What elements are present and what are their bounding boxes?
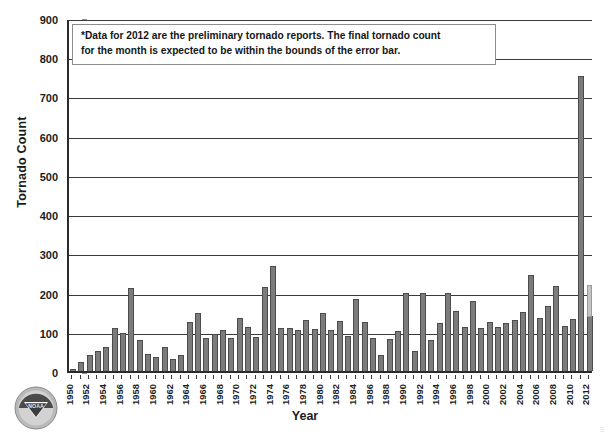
x-tick-label-1988: 1988 [380,384,391,405]
bar-slot-1961 [161,20,169,371]
bar-2006[interactable] [537,318,543,371]
bar-1969[interactable] [228,338,234,371]
bar-1950[interactable] [70,369,76,371]
bar-2011[interactable] [578,76,584,371]
x-tick-label-1964: 1964 [180,384,191,405]
x-tick-label-2000: 2000 [480,384,491,405]
bar-1975[interactable] [278,328,284,371]
bar-slot-1986 [369,20,377,371]
bar-slot-2002 [502,20,510,371]
x-tick-mark-1966 [205,375,206,379]
bar-slot-2000 [486,20,494,371]
bar-2012[interactable] [587,316,593,371]
bar-1972[interactable] [253,337,259,371]
bar-2010[interactable] [570,319,576,371]
bar-1954[interactable] [103,347,109,371]
bar-1956[interactable] [120,333,126,371]
x-tick-mark-2004 [521,375,522,379]
bar-2002[interactable] [503,323,509,371]
y-tick-label-600: 600 [20,132,58,144]
bar-1987[interactable] [378,355,384,371]
bar-1955[interactable] [112,328,118,371]
bar-2009[interactable] [562,326,568,371]
bar-2000[interactable] [487,322,493,371]
x-tick-mark-1957 [130,375,131,379]
bar-1963[interactable] [178,355,184,371]
bar-1989[interactable] [395,331,401,371]
bar-1992[interactable] [420,293,426,371]
bar-slot-1968 [219,20,227,371]
x-tick-mark-1960 [155,375,156,379]
bar-1982[interactable] [337,321,343,371]
bar-slot-1960 [152,20,160,371]
bar-slot-1956 [119,20,127,371]
bar-1953[interactable] [95,351,101,371]
bar-1985[interactable] [362,322,368,371]
y-tick-label-500: 500 [20,171,58,183]
bar-1995[interactable] [445,293,451,371]
bar-1986[interactable] [370,338,376,371]
bar-1994[interactable] [437,323,443,371]
bar-2007[interactable] [545,306,551,372]
bar-1973[interactable] [262,287,268,371]
bar-1951[interactable] [78,362,84,371]
bar-1970[interactable] [237,318,243,371]
bar-1984[interactable] [353,299,359,371]
bar-1979[interactable] [312,329,318,371]
bar-1967[interactable] [212,334,218,371]
bar-1991[interactable] [412,351,418,371]
bar-2003[interactable] [512,320,518,371]
bar-slot-1958 [136,20,144,371]
bar-1957[interactable] [128,288,134,371]
x-tick-mark-1951 [80,375,81,379]
y-tick-label-400: 400 [20,210,58,222]
annotation-note: *Data for 2012 are the preliminary torna… [72,24,496,65]
bar-slot-2011 [577,20,585,371]
bar-1976[interactable] [287,328,293,371]
bar-1988[interactable] [387,339,393,371]
x-tick-label-1986: 1986 [364,384,375,405]
bar-1962[interactable] [170,359,176,371]
bar-slot-1984 [352,20,360,371]
bar-1999[interactable] [478,328,484,371]
x-tick-mark-1991 [413,375,414,379]
bar-2001[interactable] [495,327,501,371]
bar-1958[interactable] [137,340,143,371]
x-tick-mark-2003 [513,375,514,379]
bar-2008[interactable] [553,286,559,371]
bar-1968[interactable] [220,330,226,371]
bar-1961[interactable] [162,347,168,371]
x-tick-label-1960: 1960 [147,384,158,405]
bar-1952[interactable] [87,355,93,371]
bar-slot-1954 [102,20,110,371]
bar-1964[interactable] [187,322,193,371]
bar-1990[interactable] [403,293,409,371]
bar-1974[interactable] [270,266,276,371]
bar-2005[interactable] [528,275,534,371]
bar-1965[interactable] [195,313,201,371]
bar-1996[interactable] [453,311,459,371]
bar-1978[interactable] [303,320,309,371]
bar-1981[interactable] [328,330,334,371]
bar-2004[interactable] [520,312,526,371]
bar-1993[interactable] [428,340,434,371]
x-tick-mark-1964 [188,375,189,379]
x-tick-mark-1955 [113,375,114,379]
bar-slot-1996 [452,20,460,371]
x-tick-mark-1969 [230,375,231,379]
bar-1980[interactable] [320,313,326,371]
bar-1959[interactable] [145,354,151,371]
bar-1960[interactable] [153,357,159,371]
x-tick-mark-1983 [346,375,347,379]
bar-slot-1969 [227,20,235,371]
bar-1997[interactable] [462,327,468,371]
bar-1998[interactable] [470,301,476,371]
bar-1983[interactable] [345,336,351,371]
bar-slot-1975 [277,20,285,371]
bar-1971[interactable] [245,327,251,371]
bar-slot-1953 [94,20,102,371]
bar-1966[interactable] [203,338,209,371]
bar-1977[interactable] [295,330,301,371]
y-tick-label-100: 100 [20,328,58,340]
bar-slot-1967 [211,20,219,371]
